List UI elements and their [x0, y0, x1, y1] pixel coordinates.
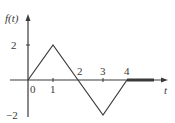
x-axis-label: t: [164, 84, 168, 96]
x-axis-arrow-icon: [161, 78, 168, 83]
y-axis-arrow-icon: [26, 14, 31, 21]
x-tick-label-4: 4: [124, 65, 130, 77]
x-tick-label-1: 1: [50, 83, 56, 95]
y-tick-label-neg2: −2: [6, 109, 18, 121]
y-tick-label-2: 2: [11, 39, 17, 51]
x-tick-label-2: 2: [77, 65, 83, 77]
y-axis-label: f(t): [5, 12, 19, 25]
x-tick-label-3: 3: [100, 65, 106, 77]
chart-canvas: f(t) 2 −2 0 1 2 3 4 t: [0, 0, 175, 123]
x-tick-label-0: 0: [30, 83, 36, 95]
